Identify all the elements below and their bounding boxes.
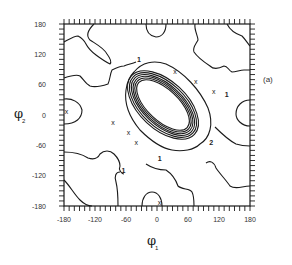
contour-level-label: 1: [158, 155, 162, 162]
y-tick-label: 120: [34, 51, 46, 58]
y-tick-label: -180: [32, 203, 46, 210]
y-tick-label: 180: [34, 21, 46, 28]
x-tick-label: -120: [88, 216, 102, 223]
y-tick-label: 0: [42, 112, 46, 119]
x-tick-label: 0: [155, 216, 159, 223]
y-tick-label: -60: [36, 142, 46, 149]
x-marker: x: [135, 139, 139, 146]
x-axis-label-subscript: 1: [155, 245, 159, 251]
x-marker: x: [173, 68, 177, 75]
x-marker: x: [111, 119, 115, 126]
x-tick-label: 120: [213, 216, 225, 223]
minimum-markers: xxxxxxxx: [65, 68, 216, 206]
contour-level-label: 1: [225, 91, 229, 98]
y-tick-label: 60: [38, 81, 46, 88]
contour-level-label: 1: [121, 167, 125, 174]
x-marker: x: [212, 88, 216, 95]
contour-chart: 11112 xxxxxxxx -180-120-60060120180 1801…: [0, 0, 292, 265]
contour-level-label: 1: [137, 56, 141, 63]
x-marker: x: [127, 129, 131, 136]
contour-lines: [64, 24, 250, 206]
x-tick-label: -60: [121, 216, 131, 223]
x-marker: x: [158, 199, 162, 206]
x-tick-labels: -180-120-60060120180: [57, 216, 256, 223]
x-marker: x: [65, 108, 69, 115]
y-tick-label: -120: [32, 172, 46, 179]
x-tick-label: -180: [57, 216, 71, 223]
contour-level-label: 2: [209, 139, 213, 146]
y-axis-label-subscript: 2: [22, 118, 26, 124]
x-tick-label: 180: [244, 216, 256, 223]
y-tick-labels: 180120600-60-120-180: [32, 21, 46, 210]
x-marker: x: [194, 78, 198, 85]
x-tick-label: 60: [184, 216, 192, 223]
panel-label: (a): [263, 75, 273, 84]
